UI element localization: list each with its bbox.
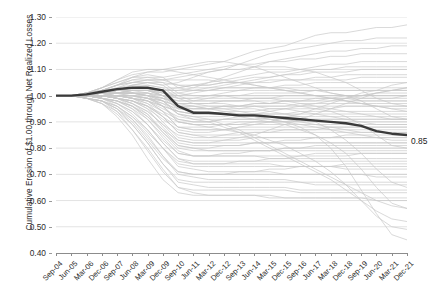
x-tick-mark <box>224 253 225 256</box>
chart-container: Cumulative Erosion of $1.00 through Net … <box>0 0 445 295</box>
x-tick-mark <box>193 253 194 256</box>
background-line-path <box>56 96 407 198</box>
x-tick-mark <box>163 253 164 256</box>
y-tick-label: 0.70 <box>30 169 46 179</box>
background-line-path <box>56 25 407 96</box>
y-tick-label: 1.00 <box>30 91 46 101</box>
lines-svg <box>56 17 407 253</box>
x-tick-mark <box>331 253 332 256</box>
x-tick-mark <box>117 253 118 256</box>
y-tick-mark <box>49 253 52 254</box>
x-tick-mark <box>132 253 133 256</box>
background-line-path <box>56 75 407 96</box>
y-tick-mark <box>49 43 52 44</box>
x-tick-mark <box>254 253 255 256</box>
y-tick-mark <box>49 227 52 228</box>
y-tick-label: 0.40 <box>30 248 46 258</box>
y-tick-mark <box>49 174 52 175</box>
x-tick-mark <box>361 253 362 256</box>
x-tick-mark <box>71 253 72 256</box>
x-tick-mark <box>178 253 179 256</box>
x-tick-mark <box>270 253 271 256</box>
y-tick-label: 1.10 <box>30 64 46 74</box>
x-tick-mark <box>376 253 377 256</box>
x-tick-mark <box>56 253 57 256</box>
x-tick-mark <box>315 253 316 256</box>
y-tick-mark <box>49 96 52 97</box>
background-line-path <box>56 93 407 148</box>
y-tick-mark <box>49 148 52 149</box>
x-tick-mark <box>346 253 347 256</box>
y-tick-mark <box>49 69 52 70</box>
y-tick-mark <box>49 122 52 123</box>
x-tick-mark <box>148 253 149 256</box>
y-tick-label: 0.60 <box>30 196 46 206</box>
x-tick-mark <box>209 253 210 256</box>
y-tick-label: 1.20 <box>30 38 46 48</box>
x-tick-mark <box>239 253 240 256</box>
background-line-path <box>56 96 407 240</box>
background-series-lines <box>56 25 407 240</box>
y-tick-label: 0.80 <box>30 143 46 153</box>
y-tick-mark <box>49 201 52 202</box>
y-tick-label: 1.30 <box>30 12 46 22</box>
y-tick-mark <box>49 17 52 18</box>
x-tick-mark <box>300 253 301 256</box>
endpoint-value-label: 0.85 <box>411 136 427 146</box>
y-axis-tick-labels: 1.301.201.101.000.900.800.700.600.500.40 <box>0 0 52 295</box>
x-tick-mark <box>87 253 88 256</box>
x-tick-mark <box>285 253 286 256</box>
x-tick-mark <box>392 253 393 256</box>
y-tick-label: 0.50 <box>30 222 46 232</box>
y-tick-label: 0.90 <box>30 117 46 127</box>
x-tick-mark <box>102 253 103 256</box>
x-tick-mark <box>407 253 408 256</box>
plot-area <box>56 17 407 253</box>
